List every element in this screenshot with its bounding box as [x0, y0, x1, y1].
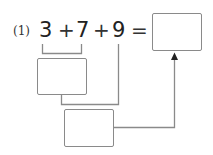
bracket-3-7 [43, 44, 82, 54]
connector-box2-to-answer [114, 59, 175, 128]
arrow-up-icon [171, 53, 178, 61]
connector-lines [0, 0, 213, 155]
